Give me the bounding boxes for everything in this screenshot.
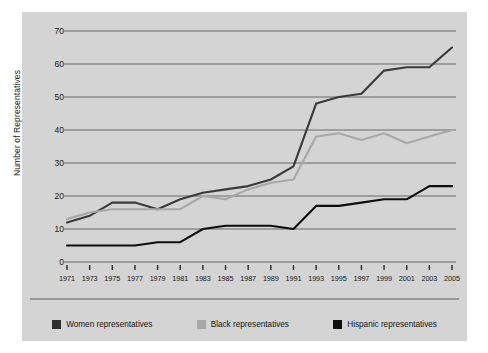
x-tick-label: 2001 [399,274,415,283]
y-tick-label: 40 [42,125,64,135]
y-tick-label: 0 [42,257,64,267]
x-tick-label: 2003 [421,274,437,283]
x-tick-marks-group [67,265,452,270]
series-line-hispanic [67,186,452,245]
y-tick-label: 20 [42,191,64,201]
legend-label: Black representatives [211,320,289,329]
x-tick-label: 1975 [104,274,120,283]
chart-figure: 010203040506070 Number of Representative… [0,0,488,353]
x-tick-label: 1979 [150,274,166,283]
y-axis-ticks: 010203040506070 [40,0,64,353]
legend-swatch-icon [333,320,342,329]
series-lines-group [67,48,452,246]
y-tick-label: 30 [42,158,64,168]
chart-plot-area [0,0,488,353]
legend-swatch-icon [52,320,61,329]
legend-item[interactable]: Black representatives [197,320,289,329]
legend-swatch-icon [197,320,206,329]
y-tick-label: 70 [42,26,64,36]
x-tick-label: 1971 [59,274,75,283]
x-tick-label: 1999 [376,274,392,283]
chart-legend: Women representativesBlack representativ… [22,313,467,335]
x-tick-label: 1985 [218,274,234,283]
legend-label: Women representatives [66,320,152,329]
y-tick-label: 50 [42,92,64,102]
legend-item[interactable]: Hispanic representatives [333,320,437,329]
x-tick-label: 1993 [308,274,324,283]
x-tick-label: 1973 [82,274,98,283]
x-tick-label: 1981 [172,274,188,283]
x-tick-label: 1983 [195,274,211,283]
y-tick-label: 60 [42,59,64,69]
x-tick-label: 1991 [286,274,302,283]
x-tick-label: 1995 [331,274,347,283]
gridlines-group [64,31,456,262]
y-axis-label: Number of Representatives [12,43,22,203]
series-line-black [67,130,452,219]
x-tick-label: 1997 [353,274,369,283]
y-tick-label: 10 [42,224,64,234]
legend-label: Hispanic representatives [347,320,437,329]
x-tick-label: 1989 [263,274,279,283]
x-tick-label: 1987 [240,274,256,283]
legend-item[interactable]: Women representatives [52,320,152,329]
x-tick-label: 1977 [127,274,143,283]
x-tick-label: 2005 [444,274,460,283]
